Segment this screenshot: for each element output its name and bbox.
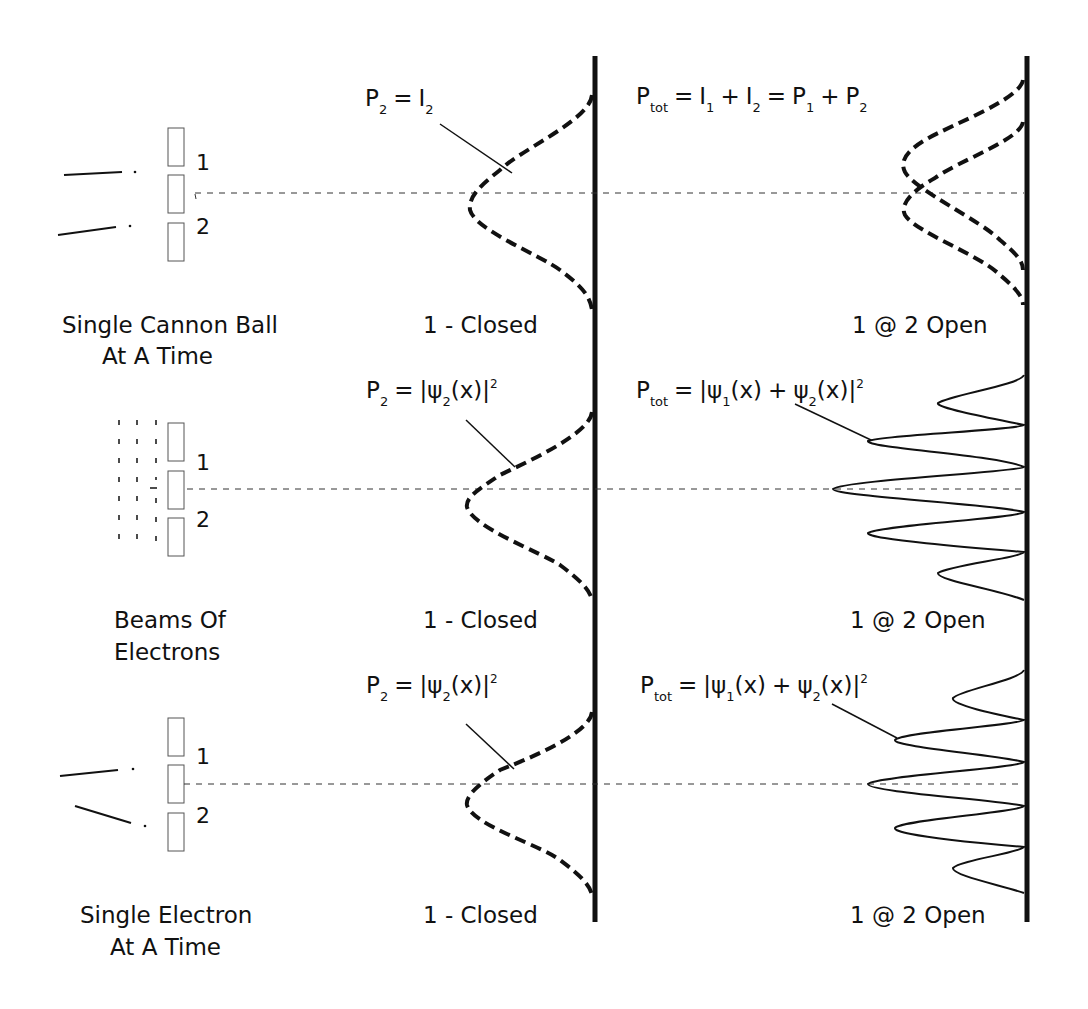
center-axis-tick bbox=[195, 194, 196, 199]
cannon-ball bbox=[134, 171, 137, 174]
barrier-middle bbox=[168, 471, 184, 509]
formula-pointer bbox=[466, 724, 514, 769]
formula-pointer bbox=[832, 704, 897, 738]
probability-curve-p2 bbox=[470, 95, 592, 310]
source-label-line2: At A Time bbox=[102, 343, 213, 369]
svg-text:Ptot=|ψ1(x)+ψ2(x)|2: Ptot=|ψ1(x)+ψ2(x)|2 bbox=[636, 377, 864, 409]
formula-ptot-classical: Ptot=I1+I2=P1+P2 bbox=[636, 83, 868, 115]
formula-pointer bbox=[795, 404, 871, 440]
row-cannon: 1 2 P2=I2 1 - Closed Ptot=I1+I2=P1+P2 1 … bbox=[58, 80, 1024, 369]
electron bbox=[144, 825, 147, 828]
trajectory bbox=[58, 227, 116, 235]
svg-text:P2=I2: P2=I2 bbox=[365, 85, 434, 117]
svg-text:P2=|ψ2(x)|2: P2=|ψ2(x)|2 bbox=[366, 672, 498, 704]
slit-1-label: 1 bbox=[196, 450, 210, 475]
barrier-top bbox=[168, 718, 184, 756]
svg-text:Ptot=I1+I2=P1+P2: Ptot=I1+I2=P1+P2 bbox=[636, 83, 868, 115]
svg-text:P2=|ψ2(x)|2: P2=|ψ2(x)|2 bbox=[366, 377, 498, 409]
formula-ptot-quantum: Ptot=|ψ1(x)+ψ2(x)|2 bbox=[636, 377, 864, 409]
interference-pattern bbox=[868, 670, 1024, 893]
interference-pattern bbox=[833, 375, 1024, 600]
formula-pointer bbox=[466, 420, 515, 467]
probability-curve-p2 bbox=[467, 412, 592, 600]
state-label-open: 1 @ 2 Open bbox=[850, 902, 986, 928]
barrier-top bbox=[168, 423, 184, 461]
trajectory bbox=[60, 770, 118, 776]
barrier-bottom bbox=[168, 813, 184, 851]
formula-ptot-quantum: Ptot=|ψ1(x)+ψ2(x)|2 bbox=[640, 672, 868, 704]
cannon-ball bbox=[129, 225, 132, 228]
barrier-middle bbox=[168, 175, 184, 213]
formula-pointer bbox=[440, 124, 512, 173]
probability-curve-p2 bbox=[467, 712, 592, 895]
formula-p2-i2: P2=I2 bbox=[365, 85, 434, 117]
state-label-open: 1 @ 2 Open bbox=[852, 312, 988, 338]
double-slit-diagram: 1 2 P2=I2 1 - Closed Ptot=I1+I2=P1+P2 1 … bbox=[0, 0, 1088, 1009]
formula-p2-psi2: P2=|ψ2(x)|2 bbox=[366, 377, 498, 409]
slit-1-label: 1 bbox=[196, 744, 210, 769]
trajectory bbox=[75, 806, 131, 823]
state-label-open: 1 @ 2 Open bbox=[850, 607, 986, 633]
source-label-line1: Single Electron bbox=[80, 902, 252, 928]
slit-1-label: 1 bbox=[196, 150, 210, 175]
row-beams: 1 2 P2=|ψ2(x)|2 1 - Closed Ptot=|ψ1(x)+ψ… bbox=[114, 375, 1024, 665]
slit-2-label: 2 bbox=[196, 803, 210, 828]
state-label-closed: 1 - Closed bbox=[423, 607, 538, 633]
barrier-bottom bbox=[168, 223, 184, 261]
formula-p2-psi2: P2=|ψ2(x)|2 bbox=[366, 672, 498, 704]
slit-2-label: 2 bbox=[196, 507, 210, 532]
barrier-top bbox=[168, 128, 184, 166]
barrier-middle bbox=[168, 765, 184, 803]
svg-text:Ptot=|ψ1(x)+ψ2(x)|2: Ptot=|ψ1(x)+ψ2(x)|2 bbox=[640, 672, 868, 704]
source-label-line1: Beams Of bbox=[114, 607, 227, 633]
source-label-line1: Single Cannon Ball bbox=[62, 312, 278, 338]
source-label-line2: Electrons bbox=[114, 639, 220, 665]
state-label-closed: 1 - Closed bbox=[423, 312, 538, 338]
trajectory bbox=[64, 172, 122, 175]
state-label-closed: 1 - Closed bbox=[423, 902, 538, 928]
barrier-bottom bbox=[168, 518, 184, 556]
slit-2-label: 2 bbox=[196, 214, 210, 239]
row-single-electron: 1 2 P2=|ψ2(x)|2 1 - Closed Ptot=|ψ1(x)+ψ… bbox=[60, 670, 1024, 960]
electron bbox=[132, 768, 135, 771]
source-label-line2: At A Time bbox=[110, 934, 221, 960]
probability-curve-p1 bbox=[903, 80, 1023, 270]
